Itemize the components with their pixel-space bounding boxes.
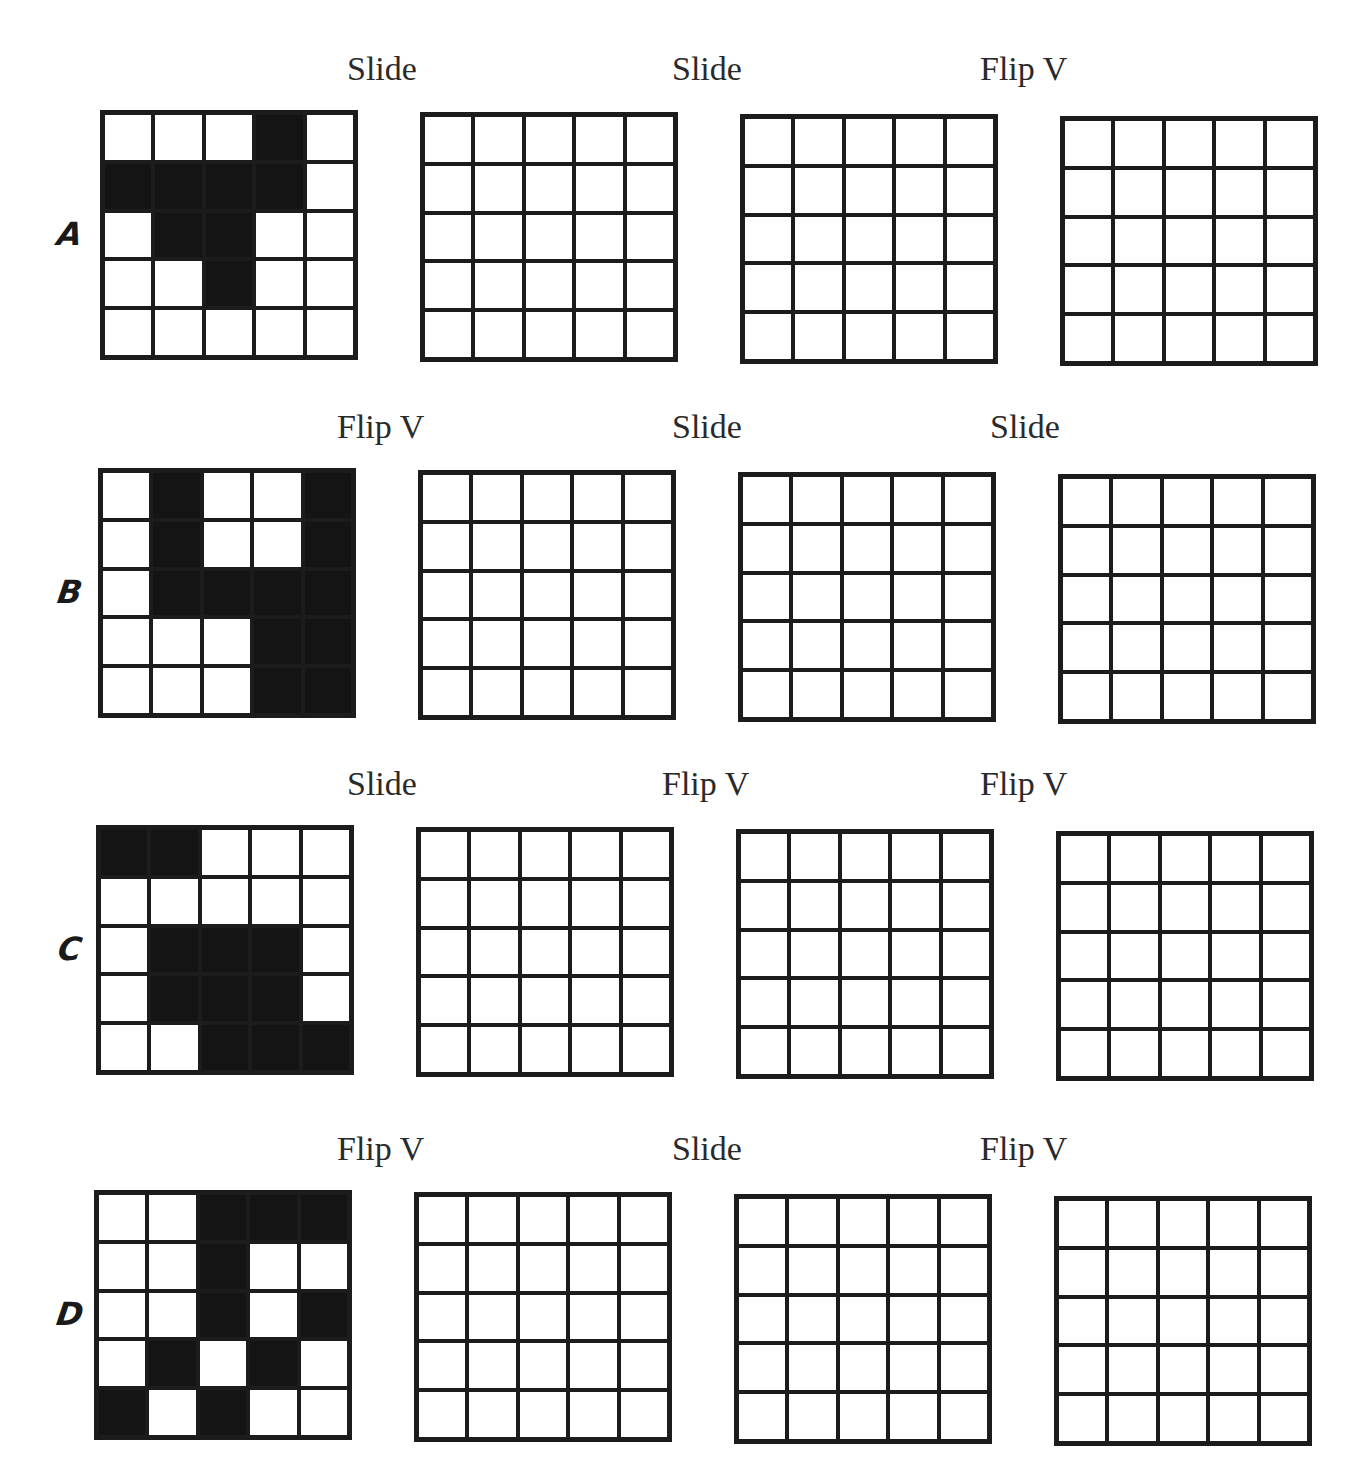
grid-cell[interactable] [576, 312, 622, 357]
grid-cell[interactable] [520, 1343, 566, 1388]
grid-cell[interactable] [846, 217, 892, 262]
grid-cell[interactable] [423, 524, 469, 569]
grid-cell[interactable] [793, 623, 839, 668]
grid-cell[interactable] [896, 168, 942, 213]
answer-grid-1[interactable] [420, 112, 678, 362]
grid-cell[interactable] [941, 1248, 987, 1293]
grid-cell[interactable] [425, 166, 471, 211]
grid-cell[interactable] [419, 1197, 465, 1242]
grid-cell[interactable] [943, 1029, 989, 1074]
grid-cell[interactable] [943, 932, 989, 977]
grid-cell[interactable] [1265, 625, 1311, 670]
grid-cell[interactable] [945, 526, 991, 571]
grid-cell[interactable] [941, 1199, 987, 1244]
grid-cell[interactable] [421, 881, 467, 926]
grid-cell[interactable] [1212, 934, 1258, 979]
grid-cell[interactable] [475, 117, 521, 162]
grid-cell[interactable] [524, 670, 570, 715]
grid-cell[interactable] [739, 1345, 785, 1390]
grid-cell[interactable] [1065, 316, 1111, 361]
answer-grid-3[interactable] [1054, 1196, 1312, 1446]
grid-cell[interactable] [844, 672, 890, 717]
grid-cell[interactable] [471, 978, 517, 1023]
grid-cell[interactable] [890, 1199, 936, 1244]
grid-cell[interactable] [945, 672, 991, 717]
grid-cell[interactable] [469, 1295, 515, 1340]
grid-cell[interactable] [793, 672, 839, 717]
answer-grid-3[interactable] [1056, 831, 1314, 1081]
grid-cell[interactable] [1059, 1347, 1105, 1392]
grid-cell[interactable] [625, 524, 671, 569]
grid-cell[interactable] [1212, 1031, 1258, 1076]
grid-cell[interactable] [793, 575, 839, 620]
grid-cell[interactable] [743, 623, 789, 668]
grid-cell[interactable] [1267, 316, 1313, 361]
grid-cell[interactable] [842, 883, 888, 928]
answer-grid-1[interactable] [418, 470, 676, 720]
grid-cell[interactable] [522, 881, 568, 926]
grid-cell[interactable] [1261, 1396, 1307, 1441]
grid-cell[interactable] [894, 477, 940, 522]
grid-cell[interactable] [795, 119, 841, 164]
grid-cell[interactable] [576, 117, 622, 162]
grid-cell[interactable] [1166, 316, 1212, 361]
grid-cell[interactable] [945, 477, 991, 522]
grid-cell[interactable] [1113, 625, 1159, 670]
grid-cell[interactable] [574, 475, 620, 520]
grid-cell[interactable] [947, 217, 993, 262]
grid-cell[interactable] [1263, 934, 1309, 979]
grid-cell[interactable] [894, 526, 940, 571]
grid-cell[interactable] [526, 117, 572, 162]
grid-cell[interactable] [844, 575, 890, 620]
grid-cell[interactable] [1063, 479, 1109, 524]
grid-cell[interactable] [894, 672, 940, 717]
grid-cell[interactable] [421, 832, 467, 877]
grid-cell[interactable] [791, 1029, 837, 1074]
grid-cell[interactable] [627, 166, 673, 211]
grid-cell[interactable] [1162, 1031, 1208, 1076]
grid-cell[interactable] [745, 119, 791, 164]
grid-cell[interactable] [421, 1027, 467, 1072]
grid-cell[interactable] [896, 217, 942, 262]
grid-cell[interactable] [524, 573, 570, 618]
grid-cell[interactable] [896, 265, 942, 310]
grid-cell[interactable] [1063, 528, 1109, 573]
grid-cell[interactable] [1109, 1201, 1155, 1246]
grid-cell[interactable] [840, 1248, 886, 1293]
grid-cell[interactable] [526, 166, 572, 211]
grid-cell[interactable] [892, 883, 938, 928]
grid-cell[interactable] [1059, 1250, 1105, 1295]
grid-cell[interactable] [1160, 1299, 1206, 1344]
grid-cell[interactable] [1210, 1396, 1256, 1441]
grid-cell[interactable] [627, 312, 673, 357]
grid-cell[interactable] [1263, 836, 1309, 881]
grid-cell[interactable] [1160, 1250, 1206, 1295]
grid-cell[interactable] [1059, 1201, 1105, 1246]
grid-cell[interactable] [890, 1394, 936, 1439]
grid-cell[interactable] [570, 1392, 616, 1437]
grid-cell[interactable] [943, 883, 989, 928]
grid-cell[interactable] [943, 980, 989, 1025]
grid-cell[interactable] [471, 930, 517, 975]
grid-cell[interactable] [522, 832, 568, 877]
grid-cell[interactable] [1113, 479, 1159, 524]
grid-cell[interactable] [945, 575, 991, 620]
grid-cell[interactable] [623, 1027, 669, 1072]
grid-cell[interactable] [1164, 528, 1210, 573]
grid-cell[interactable] [621, 1295, 667, 1340]
grid-cell[interactable] [1115, 170, 1161, 215]
grid-cell[interactable] [570, 1343, 616, 1388]
grid-cell[interactable] [570, 1295, 616, 1340]
grid-cell[interactable] [743, 575, 789, 620]
grid-cell[interactable] [621, 1246, 667, 1291]
grid-cell[interactable] [795, 314, 841, 359]
grid-cell[interactable] [1063, 674, 1109, 719]
grid-cell[interactable] [1166, 267, 1212, 312]
grid-cell[interactable] [469, 1246, 515, 1291]
grid-cell[interactable] [1115, 121, 1161, 166]
grid-cell[interactable] [791, 980, 837, 1025]
grid-cell[interactable] [947, 119, 993, 164]
grid-cell[interactable] [739, 1199, 785, 1244]
grid-cell[interactable] [1212, 982, 1258, 1027]
grid-cell[interactable] [1113, 577, 1159, 622]
